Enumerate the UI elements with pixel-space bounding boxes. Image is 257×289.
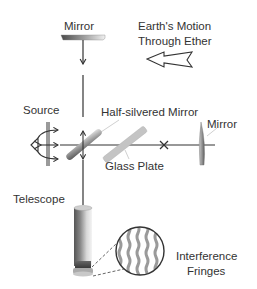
glass-plate: Glass Plate [102, 126, 163, 172]
light-source: Source [23, 104, 59, 166]
interferometer-diagram: Mirror Earth's Motion Through Ether Sour… [0, 0, 257, 289]
ether-arrow-icon [147, 52, 192, 67]
telescope-label: Telescope [13, 193, 65, 205]
earth-motion-label-1: Earth's Motion [138, 20, 211, 32]
glass-plate-label: Glass Plate [105, 160, 164, 172]
right-mirror-label: Mirror [207, 118, 237, 130]
top-mirror-label: Mirror [64, 20, 94, 32]
fringes-label-2: Fringes [187, 265, 226, 277]
half-silvered-label: Half-silvered Mirror [101, 106, 198, 118]
telescope: Telescope [13, 193, 93, 277]
fringes-label-1: Interference [176, 250, 237, 262]
right-mirror: Mirror [199, 118, 237, 165]
top-mirror: Mirror [61, 20, 105, 40]
earth-motion-label-2: Through Ether [138, 35, 212, 47]
half-silvered-mirror: Half-silvered Mirror [65, 106, 198, 161]
earth-motion-indicator: Earth's Motion Through Ether [138, 20, 212, 67]
source-label: Source [23, 104, 59, 116]
interference-fringes-view: Interference Fringes [116, 225, 237, 281]
